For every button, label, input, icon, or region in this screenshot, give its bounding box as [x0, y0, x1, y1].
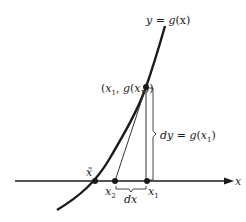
root-label: x̃	[86, 166, 93, 179]
newton-method-diagram: y = g(x) (x1, g(x1)) dy = g(x1) dx x x̃ …	[0, 0, 246, 222]
diagram-canvas: y = g(x) (x1, g(x1)) dy = g(x1) dx x x̃ …	[0, 0, 246, 222]
curve-label: y = g(x)	[145, 14, 190, 27]
axis-x-label: x	[235, 175, 242, 188]
x1-label: x1	[148, 185, 159, 200]
x-axis-arrow-icon	[224, 178, 234, 185]
point-x1	[144, 178, 150, 184]
dy-label: dy = g(x1)	[160, 129, 216, 144]
point-root	[92, 178, 98, 184]
point-label: (x1, g(x1))	[101, 82, 154, 97]
x2-label: x2	[105, 185, 116, 200]
tangent-line	[115, 87, 146, 181]
dx-bracket	[116, 186, 146, 192]
dx-label: dx	[124, 193, 138, 206]
dy-bracket	[149, 88, 156, 180]
point-x2	[112, 178, 118, 184]
